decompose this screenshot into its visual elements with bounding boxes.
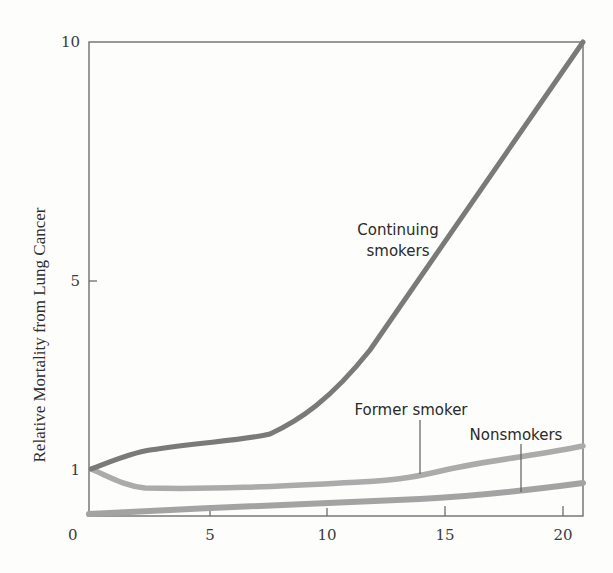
x-tick-label-5: 5 xyxy=(205,526,215,544)
x-tick-label-15: 15 xyxy=(435,526,454,544)
series-former-smoker-line xyxy=(91,446,583,488)
y-tick-label-10: 10 xyxy=(61,33,80,51)
annotation-continuing-line1: Continuing xyxy=(357,221,438,239)
annotation-nonsmokers: Nonsmokers xyxy=(470,426,563,444)
x-tick-label-20: 20 xyxy=(553,526,572,544)
plot-frame xyxy=(89,42,583,516)
x-tick-label-10: 10 xyxy=(317,526,336,544)
y-tick-label-5: 5 xyxy=(70,272,80,290)
chart: 10 5 1 0 5 10 15 20 Relative Mortality f… xyxy=(0,0,613,573)
y-tick-label-1: 1 xyxy=(70,461,80,479)
annotation-continuing-line2: smokers xyxy=(367,242,430,260)
series-continuing-smokers-line xyxy=(91,42,583,469)
x-tick-label-0: 0 xyxy=(68,526,78,544)
y-axis-title: Relative Mortality from Lung Cancer xyxy=(30,207,49,462)
annotation-former-smoker: Former smoker xyxy=(354,401,468,419)
